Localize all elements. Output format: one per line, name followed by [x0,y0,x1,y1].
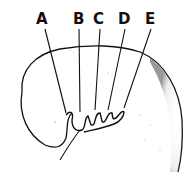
embryo-outline [22,46,182,172]
label-c: C [93,12,104,27]
head-outline [21,92,72,147]
label-a: A [36,12,48,27]
label-e: E [145,12,155,27]
pharyngeal-arches [66,111,124,132]
label-b: B [73,12,84,27]
label-d: D [118,12,130,27]
pointer-lines [45,29,151,113]
